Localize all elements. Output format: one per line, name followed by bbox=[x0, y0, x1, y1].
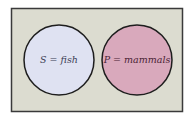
set-s-label: S = fish bbox=[40, 54, 78, 65]
set-p-label: P = mammals bbox=[103, 54, 171, 65]
venn-diagram: S = fish P = mammals bbox=[0, 0, 195, 121]
